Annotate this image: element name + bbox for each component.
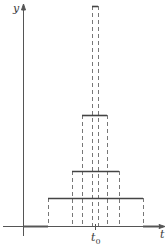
pulse-tops [48,7,143,199]
t0-label: t0 [91,232,101,244]
delta-sequence-diagram [0,0,168,244]
t0-label-subscript: 0 [95,237,100,244]
t-axis-label: t [160,229,164,240]
y-axis-arrow-icon [22,4,26,10]
axes [3,4,165,236]
y-axis-label: y [13,3,19,14]
